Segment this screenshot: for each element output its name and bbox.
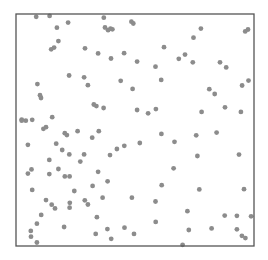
data-point [62, 225, 67, 230]
data-point [55, 25, 60, 30]
data-point [82, 152, 87, 157]
data-point [47, 158, 52, 163]
data-point [95, 215, 100, 220]
data-point [86, 83, 91, 88]
data-point [108, 153, 113, 158]
data-point [159, 78, 164, 83]
data-point [199, 26, 204, 31]
data-point [239, 110, 244, 115]
data-point [235, 213, 240, 218]
data-point [29, 234, 34, 239]
data-point [65, 133, 70, 138]
data-point [122, 225, 127, 230]
data-point [94, 104, 99, 109]
data-point [67, 174, 72, 179]
data-point [66, 20, 71, 25]
data-point [186, 228, 191, 233]
data-point [249, 214, 254, 219]
data-point [243, 236, 248, 241]
data-point [122, 143, 127, 148]
data-point [90, 184, 95, 189]
data-point [223, 105, 228, 110]
data-point [137, 141, 142, 146]
data-point [242, 187, 247, 192]
data-point [28, 229, 33, 234]
data-point [67, 205, 72, 210]
data-point [240, 83, 245, 88]
data-point [209, 226, 214, 231]
data-point [96, 169, 101, 174]
data-point [19, 118, 24, 123]
data-point [49, 47, 54, 52]
data-point [26, 142, 31, 147]
data-point [56, 167, 61, 172]
data-point [96, 129, 101, 134]
data-point [105, 179, 110, 184]
data-point [191, 35, 196, 40]
data-point [118, 78, 123, 83]
data-point [30, 188, 35, 193]
data-point [224, 65, 229, 70]
data-point [29, 167, 34, 172]
data-point [122, 51, 127, 56]
data-point [100, 195, 105, 200]
data-point [34, 14, 39, 19]
data-point [78, 159, 83, 164]
data-point [39, 213, 44, 218]
data-point [132, 232, 137, 237]
data-point [135, 108, 140, 113]
data-point [49, 202, 54, 207]
data-point [197, 187, 202, 192]
data-point [110, 27, 115, 32]
data-point [50, 115, 55, 120]
data-point [130, 195, 135, 200]
data-point [47, 172, 52, 177]
data-point [82, 198, 87, 203]
data-point [130, 87, 135, 92]
data-point [218, 60, 223, 65]
data-point [131, 21, 136, 26]
data-point [67, 73, 72, 78]
data-point [199, 110, 204, 115]
data-point [190, 60, 195, 65]
data-point [53, 206, 58, 211]
data-point [35, 82, 40, 87]
data-point [159, 183, 164, 188]
data-point [135, 59, 140, 64]
data-point [237, 152, 242, 157]
data-point [115, 147, 120, 152]
data-point [159, 132, 164, 137]
data-point [35, 221, 40, 226]
data-point [176, 56, 181, 61]
data-point [222, 213, 227, 218]
data-point [243, 29, 248, 34]
data-point [44, 198, 49, 203]
data-point [30, 117, 35, 122]
data-point [72, 189, 77, 194]
data-point [62, 174, 67, 179]
data-point [153, 199, 158, 204]
data-point [235, 227, 240, 232]
data-point [109, 56, 114, 61]
data-point [162, 45, 167, 50]
data-point [83, 46, 88, 51]
data-point [90, 135, 95, 140]
data-point [194, 133, 199, 138]
data-point [56, 39, 61, 44]
data-point [153, 64, 158, 69]
data-point [35, 240, 40, 245]
data-point [39, 96, 44, 101]
data-point [96, 51, 101, 56]
data-point [82, 75, 87, 80]
data-point [207, 87, 212, 92]
data-point [146, 111, 151, 116]
data-point [23, 118, 28, 123]
data-point [212, 92, 217, 97]
data-point [171, 166, 176, 171]
data-point [67, 152, 72, 157]
data-point [153, 220, 158, 225]
data-point [93, 232, 98, 237]
data-point [109, 236, 114, 241]
data-point [86, 202, 91, 207]
data-point [67, 200, 72, 205]
